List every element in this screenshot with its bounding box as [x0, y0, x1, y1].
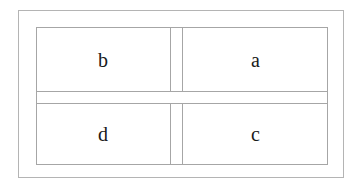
cell-label-bottom-right: c [183, 124, 328, 144]
cell-label-top-right: a [183, 50, 328, 70]
vertical-divider-top-left [170, 27, 171, 91]
cell-label-bottom-left: d [36, 124, 170, 144]
cell-label-top-left: b [36, 50, 170, 70]
diagram-canvas: b a d c [0, 0, 362, 191]
vertical-divider-bottom-left [170, 103, 171, 165]
horizontal-divider-upper [36, 91, 328, 92]
